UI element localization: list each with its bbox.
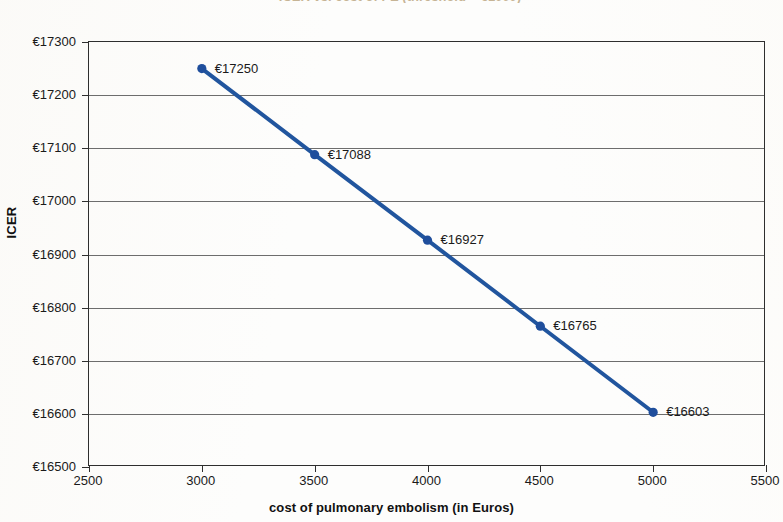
y-axis-tick-label: €16500 bbox=[33, 459, 76, 474]
x-axis-tick-label: 5000 bbox=[638, 473, 667, 488]
y-axis-tick bbox=[82, 148, 89, 149]
y-axis-tick-label: €16700 bbox=[33, 352, 76, 367]
series-line-icer bbox=[89, 42, 766, 467]
y-axis-tick bbox=[82, 255, 89, 256]
y-axis-tick bbox=[82, 467, 89, 468]
data-point-label: €17250 bbox=[215, 60, 258, 75]
y-axis-tick-label: €16900 bbox=[33, 246, 76, 261]
y-axis-tick-label: €17200 bbox=[33, 87, 76, 102]
data-point-marker bbox=[649, 408, 658, 417]
data-point-label: €16603 bbox=[666, 404, 709, 419]
y-axis-tick bbox=[82, 361, 89, 362]
x-axis-tick-label: 2500 bbox=[74, 473, 103, 488]
data-point-marker bbox=[310, 150, 319, 159]
y-axis-tick bbox=[82, 201, 89, 202]
y-axis-title: ICER bbox=[4, 193, 19, 253]
x-axis-title: cost of pulmonary embolism (in Euros) bbox=[0, 500, 783, 515]
y-axis-tick bbox=[82, 308, 89, 309]
data-point-marker bbox=[536, 322, 545, 331]
y-axis-tick bbox=[82, 414, 89, 415]
y-axis-tick bbox=[82, 42, 89, 43]
x-axis-tick-label: 4500 bbox=[525, 473, 554, 488]
x-axis-tick-label: 5500 bbox=[751, 473, 780, 488]
y-axis-tick-label: €16800 bbox=[33, 299, 76, 314]
y-axis-tick-label: €17100 bbox=[33, 140, 76, 155]
plot-area: €17250€17088€16927€16765€16603 bbox=[88, 41, 765, 466]
data-point-marker bbox=[197, 64, 206, 73]
x-axis-tick-label: 4000 bbox=[412, 473, 441, 488]
data-point-label: €16927 bbox=[441, 232, 484, 247]
data-point-marker bbox=[423, 236, 432, 245]
chart-title-cropped: ICER vs. cost of PE (threshold = €1000) bbox=[150, 0, 650, 3]
x-axis-tick-label: 3000 bbox=[186, 473, 215, 488]
data-point-label: €17088 bbox=[328, 146, 371, 161]
chart-container: ICER vs. cost of PE (threshold = €1000) … bbox=[0, 0, 783, 522]
y-axis-tick bbox=[82, 95, 89, 96]
y-axis-tick-label: €17000 bbox=[33, 193, 76, 208]
data-point-label: €16765 bbox=[553, 318, 596, 333]
x-axis-tick bbox=[766, 465, 767, 472]
y-axis-tick-label: €16600 bbox=[33, 405, 76, 420]
x-axis-tick-label: 3500 bbox=[299, 473, 328, 488]
y-axis-tick-label: €17300 bbox=[33, 34, 76, 49]
